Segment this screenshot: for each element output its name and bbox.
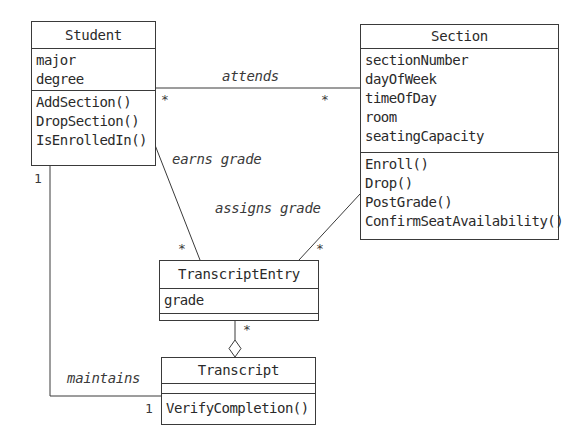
class-section-name: Section (361, 25, 558, 49)
class-section[interactable]: Section sectionNumber dayOfWeek timeOfDa… (360, 24, 559, 240)
attribute: room (365, 108, 554, 127)
class-transcript-attributes (162, 384, 315, 394)
maintains-line (50, 165, 161, 396)
assigns-grade-label: assigns grade (215, 200, 321, 216)
attends-mult-student: * (161, 92, 169, 107)
class-transcript-entry-operations (160, 314, 318, 321)
maintains-mult-student: 1 (34, 171, 42, 186)
aggregation-mult-entry: * (243, 322, 251, 337)
class-transcript-operations: VerifyCompletion() (162, 394, 315, 420)
class-student[interactable]: Student major degree AddSection() DropSe… (31, 21, 156, 166)
class-student-name: Student (32, 22, 155, 49)
operation: ConfirmSeatAvailability() (365, 212, 554, 231)
assigns-grade-mult-entry: * (316, 241, 324, 256)
class-student-operations: AddSection() DropSection() IsEnrolledIn(… (32, 91, 155, 152)
maintains-label: maintains (67, 370, 140, 386)
class-transcript-entry-attributes: grade (160, 289, 318, 314)
class-transcript-name: Transcript (162, 358, 315, 384)
class-student-attributes: major degree (32, 49, 155, 91)
attends-label: attends (222, 68, 279, 84)
attribute: major (36, 51, 151, 70)
attribute: timeOfDay (365, 89, 554, 108)
attribute: dayOfWeek (365, 70, 554, 89)
class-section-attributes: sectionNumber dayOfWeek timeOfDay room s… (361, 49, 558, 153)
operation: VerifyCompletion() (166, 399, 311, 418)
operation: AddSection() (36, 93, 151, 112)
operation: DropSection() (36, 112, 151, 131)
operation: PostGrade() (365, 193, 554, 212)
attribute: sectionNumber (365, 51, 554, 70)
class-transcript-entry-name: TranscriptEntry (160, 261, 318, 289)
operation: Drop() (365, 174, 554, 193)
maintains-mult-transcript: 1 (145, 401, 153, 416)
aggregation-diamond-icon (229, 340, 241, 357)
earns-grade-mult-entry: * (178, 241, 186, 256)
operation: IsEnrolledIn() (36, 131, 151, 150)
attribute: grade (164, 291, 314, 310)
earns-grade-label: earns grade (172, 151, 261, 167)
class-section-operations: Enroll() Drop() PostGrade() ConfirmSeatA… (361, 153, 558, 233)
class-transcript[interactable]: Transcript VerifyCompletion() (161, 357, 316, 425)
operation: Enroll() (365, 155, 554, 174)
attribute: seatingCapacity (365, 127, 554, 146)
attends-mult-section: * (321, 92, 329, 107)
class-transcript-entry[interactable]: TranscriptEntry grade (159, 260, 319, 321)
attribute: degree (36, 70, 151, 89)
